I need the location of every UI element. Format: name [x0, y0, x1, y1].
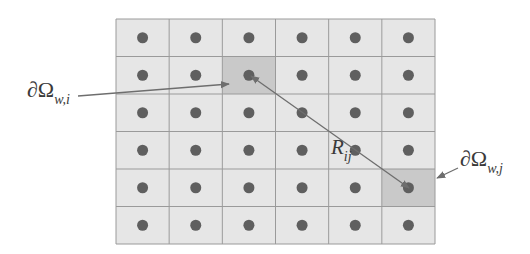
label-omega-j: ∂Ωw,j [460, 146, 503, 177]
cell-center-dot [190, 70, 201, 81]
cell-center-dot [190, 182, 201, 193]
grid-diagram [0, 0, 530, 254]
cell-center-dot [190, 220, 201, 231]
cell-center-dot [350, 182, 361, 193]
cell-center-dot [403, 32, 414, 43]
cell-center-dot [350, 70, 361, 81]
label-distance-main: R [331, 135, 344, 159]
cell-center-dot [190, 107, 201, 118]
cell-center-dot [190, 145, 201, 156]
cell-center-dot [137, 32, 148, 43]
cell-center-dot [350, 32, 361, 43]
cell-center-dot [137, 70, 148, 81]
label-omega-i-sub: w,i [54, 92, 70, 107]
cell-center-dot [297, 145, 308, 156]
cell-center-dot [137, 145, 148, 156]
cell-center-dot [350, 220, 361, 231]
label-omega-j-main: ∂Ω [460, 146, 487, 171]
label-distance-rij: Rij [331, 135, 352, 165]
cell-center-dot [243, 32, 254, 43]
cell-center-dot [403, 107, 414, 118]
arrow-omega-j [437, 168, 458, 178]
cell-center-dot [243, 220, 254, 231]
label-omega-i-main: ∂Ω [27, 77, 54, 102]
cell-center-dot [403, 145, 414, 156]
cell-center-dot [403, 220, 414, 231]
cell-center-dot [297, 182, 308, 193]
cell-center-dot [297, 32, 308, 43]
cell-center-dot [137, 107, 148, 118]
cell-center-dot [297, 70, 308, 81]
cell-center-dot [297, 220, 308, 231]
label-omega-i: ∂Ωw,i [27, 77, 70, 108]
cell-center-dot [243, 70, 254, 81]
cell-center-dot [243, 182, 254, 193]
label-omega-j-sub: w,j [487, 161, 503, 176]
cell-center-dot [243, 145, 254, 156]
cell-center-dot [243, 107, 254, 118]
cell-center-dot [403, 70, 414, 81]
cell-center-dot [137, 220, 148, 231]
cell-center-dot [190, 32, 201, 43]
cell-center-dot [350, 107, 361, 118]
cell-center-dot [137, 182, 148, 193]
label-distance-sub: ij [344, 149, 352, 164]
